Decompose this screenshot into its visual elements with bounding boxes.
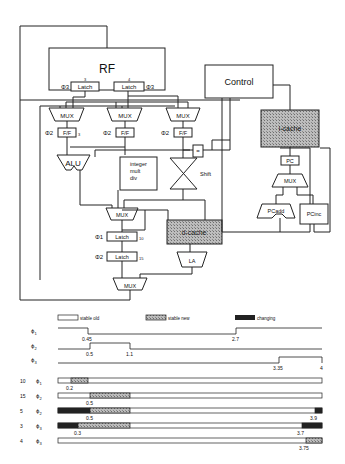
dcache-label: d-cache [182, 229, 207, 236]
la-label: LA [189, 258, 196, 264]
edge-label: 4 [320, 365, 323, 371]
bar-end: 3.75 [299, 445, 309, 451]
phi2-bottom: Φ2 [95, 254, 104, 260]
bar-segment-stable-new [90, 393, 130, 398]
phi2-c: Φ2 [161, 130, 170, 136]
bar-segment-changing [302, 423, 322, 428]
latch-b1-num: 10 [139, 236, 144, 241]
pcmux-label: MUX [284, 178, 297, 184]
phi2-a: Φ2 [45, 130, 54, 136]
bar-phase: ϕ3 [36, 423, 42, 431]
legend-changing: changing [257, 316, 276, 321]
ff1-num: 3 [78, 132, 81, 137]
latch-b2-label: Latch [115, 254, 128, 260]
legend-stable-new: stable new [168, 316, 190, 321]
phi2-b: Φ2 [103, 130, 112, 136]
legend-swatch-changing [235, 315, 255, 320]
bar-num: 4 [20, 438, 23, 444]
intmult-line1: integer [130, 161, 147, 167]
legend-swatch-stable-new [146, 315, 166, 320]
bar-segment-changing [58, 423, 78, 428]
control-label: Control [224, 77, 253, 87]
edge-label: 3.35 [273, 365, 283, 371]
wire [273, 85, 290, 110]
mux2-label: MUX [118, 113, 131, 119]
wire [203, 140, 230, 150]
bar-phase: ϕ3 [36, 438, 42, 446]
mux1-label: MUX [60, 113, 73, 119]
alu-label: ALU [65, 159, 81, 168]
intmult-line3: div [130, 175, 137, 181]
clock-phi1-wave [58, 328, 322, 334]
datapath-diagram: RF Control Latch Latch 3 4 Φ3 Φ3 MUX MUX… [0, 0, 345, 464]
bar-segment-stable-new [78, 423, 130, 428]
latch-right-label: Latch [122, 84, 137, 90]
mux-wb-label: MUX [116, 212, 129, 218]
timing-bar [58, 378, 322, 383]
shift-label: Shift [200, 171, 211, 177]
phi3-left-label: Φ3 [61, 84, 70, 90]
edge-label: 0.5 [86, 351, 93, 357]
bar-segment-stable-new [90, 408, 130, 413]
bar-phase: ϕ1 [36, 378, 42, 386]
bar-end: 3.9 [310, 415, 317, 421]
bar-phase: ϕ2 [36, 393, 42, 401]
phi3-right-label: Φ3 [146, 84, 155, 90]
bar-end: 3.7 [297, 430, 304, 436]
bar-mark: 0.5 [86, 415, 93, 421]
compare-label: = [196, 148, 200, 154]
clock-phi3-label: ϕ3 [31, 357, 37, 365]
wire [20, 26, 107, 48]
clock-phi3-wave [58, 357, 322, 363]
legend-stable-old: stable old [80, 316, 100, 321]
bar-num: 3 [20, 423, 23, 429]
clock-phi2-label: ϕ2 [31, 343, 37, 351]
wire [60, 102, 122, 108]
bar-num: 15 [20, 393, 26, 399]
wire [67, 137, 125, 155]
latch-right-num: 4 [128, 77, 131, 82]
latch-left-label: Latch [78, 84, 93, 90]
bar-segment-changing [58, 408, 90, 413]
latch-left-num: 3 [84, 77, 87, 82]
ff1-label: F/F [63, 130, 72, 136]
timing-bar [58, 438, 322, 443]
legend: stable old stable new changing [58, 315, 276, 321]
legend-swatch-stable-old [58, 315, 78, 320]
bar-segment-changing [315, 408, 322, 413]
bar-phase: ϕ2 [36, 408, 42, 416]
edge-label: 2.7 [232, 336, 239, 342]
shifter [170, 158, 197, 189]
latch-b2-num: 15 [139, 256, 144, 261]
bar-mark: 0.2 [66, 385, 73, 391]
phi1-bottom: Φ1 [95, 234, 104, 240]
wire [145, 210, 168, 220]
wire [95, 147, 190, 157]
ff2-label: F/F [121, 130, 130, 136]
icache-label: i-cache [279, 125, 302, 132]
wire [183, 200, 205, 220]
mux3-label: MUX [176, 113, 189, 119]
clock-phi2-wave [58, 343, 322, 349]
wire [67, 121, 183, 128]
latch-b1-label: Latch [115, 234, 128, 240]
pcinc-label: PCinc [307, 211, 322, 217]
wire [118, 189, 183, 208]
bar-num: 5 [20, 408, 23, 414]
edge-label: 1.1 [126, 351, 133, 357]
bar-mark: 0.3 [74, 430, 81, 436]
edge-label: 0.45 [82, 336, 92, 342]
bar-num: 10 [20, 378, 26, 384]
ff3-label: F/F [179, 130, 188, 136]
clock-phi1-label: ϕ1 [31, 328, 37, 336]
pcadd-label: PCadd [268, 208, 285, 214]
bar-segment-stable-new [306, 438, 322, 443]
mux-final-label: MUX [124, 283, 137, 289]
wire [66, 102, 188, 108]
pc-label: PC [286, 158, 294, 164]
intmult-line2: mult [130, 168, 141, 174]
wire [276, 187, 313, 204]
rf-label: RF [99, 62, 115, 76]
wire [80, 170, 112, 208]
bar-mark: 0.5 [86, 400, 93, 406]
